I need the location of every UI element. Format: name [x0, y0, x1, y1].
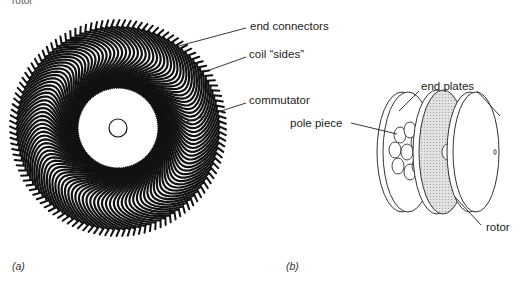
label-end-connectors: end connectors	[250, 20, 329, 32]
caption-a: (a)	[12, 260, 25, 272]
disc-motor-exploded	[377, 90, 499, 214]
diagram-canvas	[0, 0, 529, 283]
label-end-plates: end plates	[421, 80, 474, 92]
caption-b: (b)	[286, 260, 299, 272]
right-end-plate	[447, 92, 499, 212]
printed-rotor-disc	[10, 20, 226, 236]
shaft-hole	[109, 119, 127, 137]
label-commutator: commutator	[249, 94, 310, 106]
label-rotor: rotor	[486, 221, 510, 233]
label-pole-piece: pole piece	[290, 117, 342, 129]
label-coil-sides: coil “sides”	[249, 48, 304, 60]
